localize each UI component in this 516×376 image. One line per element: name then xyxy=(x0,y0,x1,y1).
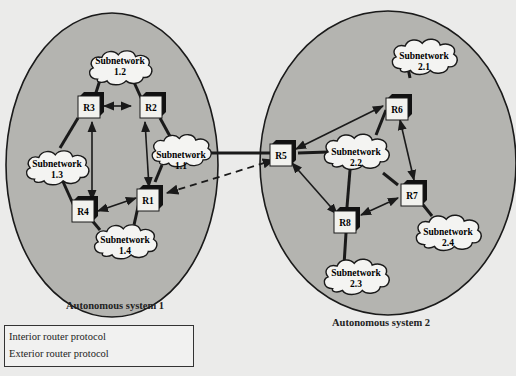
svg-text:R3: R3 xyxy=(83,103,95,113)
autonomous-system-2-label: Autonomous system 2 xyxy=(332,317,430,328)
svg-text:1.2: 1.2 xyxy=(114,67,126,77)
svg-text:2.2: 2.2 xyxy=(350,158,362,168)
router-r6: R6 xyxy=(386,94,412,120)
svg-text:1.4: 1.4 xyxy=(119,246,131,256)
svg-text:R7: R7 xyxy=(406,191,418,201)
svg-text:R6: R6 xyxy=(391,105,403,115)
subnetwork-1-2: Subnetwork 1.2 xyxy=(90,51,152,85)
svg-text:Subnetwork: Subnetwork xyxy=(399,51,449,61)
router-r8: R8 xyxy=(334,207,360,233)
svg-text:Subnetwork: Subnetwork xyxy=(95,56,145,66)
svg-text:Subnetwork: Subnetwork xyxy=(32,159,82,169)
router-r7: R7 xyxy=(401,180,427,206)
router-r3: R3 xyxy=(78,92,104,118)
svg-text:Subnetwork: Subnetwork xyxy=(156,150,206,160)
svg-text:2.4: 2.4 xyxy=(442,238,454,248)
svg-text:R1: R1 xyxy=(142,196,154,206)
svg-text:2.1: 2.1 xyxy=(418,62,430,72)
svg-text:Subnetwork: Subnetwork xyxy=(100,235,150,245)
legend-exterior-label: Exterior router protocol xyxy=(9,348,109,359)
legend: Interior router protocol Exterior router… xyxy=(4,325,194,367)
svg-text:R5: R5 xyxy=(275,151,287,161)
router-r5: R5 xyxy=(270,140,296,166)
svg-text:R8: R8 xyxy=(339,218,351,228)
router-r2: R2 xyxy=(140,92,166,118)
legend-interior-label: Interior router protocol xyxy=(9,331,106,342)
network-diagram: Subnetwork 1.2 Subnetwork 1.1 Subnetwork… xyxy=(0,0,516,376)
svg-text:2.3: 2.3 xyxy=(350,279,362,289)
autonomous-system-2-region xyxy=(260,11,516,315)
autonomous-system-1-label: Autonomous system 1 xyxy=(66,300,164,311)
svg-text:R2: R2 xyxy=(145,103,157,113)
svg-text:Subnetwork: Subnetwork xyxy=(331,147,381,157)
svg-text:Subnetwork: Subnetwork xyxy=(423,227,473,237)
svg-text:1.1: 1.1 xyxy=(175,161,187,171)
svg-text:R4: R4 xyxy=(77,207,89,217)
router-r1: R1 xyxy=(137,185,163,211)
svg-text:1.3: 1.3 xyxy=(51,170,63,180)
router-r4: R4 xyxy=(72,196,98,222)
svg-text:Subnetwork: Subnetwork xyxy=(331,268,381,278)
